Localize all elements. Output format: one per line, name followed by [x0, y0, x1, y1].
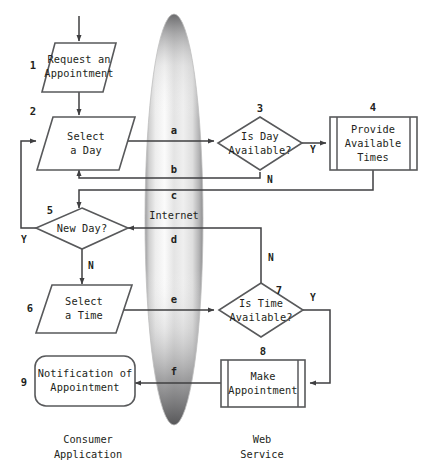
flowchart-canvas: 1 Request an Appointment 2 Select a Day … — [0, 0, 424, 475]
flowchart-diagram: 1 Request an Appointment 2 Select a Day … — [0, 0, 424, 475]
lane-label-consumer-line1: Consumer — [63, 433, 113, 445]
lane-label-consumer: Consumer Application — [54, 433, 122, 460]
lane-label-web-service-line1: Web — [253, 433, 272, 445]
node-select-a-time[interactable]: 6 Select a Time — [27, 285, 132, 333]
node-is-day-available[interactable]: 3 Is Day Available? — [218, 102, 302, 170]
step-number-2: 2 — [30, 105, 36, 117]
node-label-n6-line2: a Time — [65, 309, 103, 321]
node-make-appointment[interactable]: 8 Make Appointment — [221, 345, 305, 407]
node-select-a-day[interactable]: 2 Select a Day — [30, 105, 135, 170]
node-is-time-available[interactable]: 7 Is Time Available? — [219, 283, 303, 337]
node-label-n4-line1: Provide — [351, 123, 395, 135]
step-number-8: 8 — [260, 345, 266, 357]
node-label-n8-line1: Make — [250, 370, 275, 382]
node-label-n5-line1: New Day? — [57, 222, 107, 234]
node-provide-available-times[interactable]: 4 Provide Available Times — [330, 101, 417, 170]
step-number-4: 4 — [370, 101, 376, 113]
node-label-n1-line2: Appointment — [44, 67, 113, 79]
link-label-a: a — [171, 124, 177, 136]
node-label-n2-line1: Select — [67, 130, 105, 142]
step-number-9: 9 — [21, 376, 27, 388]
connector-n5-yes-loop — [21, 141, 36, 228]
node-label-n2-line2: a Day — [70, 144, 102, 156]
node-label-n4-line3: Times — [357, 151, 389, 163]
internet-cloud-label: Internet — [149, 209, 199, 221]
link-label-e: e — [171, 293, 177, 305]
link-label-b: b — [171, 163, 177, 175]
node-label-n6-line1: Select — [65, 295, 103, 307]
node-label-n8-line2: Appointment — [228, 384, 297, 396]
node-new-day[interactable]: 5 New Day? — [36, 204, 128, 249]
node-label-n7-line1: Is Time — [239, 297, 283, 309]
node-label-n3-line2: Available? — [229, 144, 292, 156]
branch-label-n7-no: N — [268, 252, 274, 263]
step-number-7: 7 — [276, 284, 282, 296]
branch-label-n3-no: N — [267, 174, 273, 185]
node-request-an-appointment[interactable]: 1 Request an Appointment — [30, 43, 116, 92]
branch-label-n3-yes: Y — [310, 144, 316, 155]
step-number-6: 6 — [27, 302, 33, 314]
step-number-5: 5 — [47, 204, 53, 216]
node-label-n9-line1: Notification of — [38, 367, 133, 379]
node-label-n3-line1: Is Day — [241, 130, 279, 142]
link-label-c: c — [171, 189, 177, 201]
node-label-n4-line2: Available — [345, 137, 402, 149]
branch-label-n7-yes: Y — [310, 292, 316, 303]
lane-label-web-service: Web Service — [240, 433, 283, 460]
node-label-n7-line2: Available? — [230, 311, 293, 323]
link-label-d: d — [171, 233, 177, 245]
connector-link-c — [79, 170, 373, 208]
step-number-1: 1 — [30, 59, 36, 71]
branch-label-n5-yes: Y — [21, 234, 27, 245]
node-label-n1-line1: Request an — [48, 53, 111, 65]
connector-n7-yes-to-n8 — [303, 310, 330, 383]
branch-label-n5-no: N — [88, 260, 94, 271]
step-number-3: 3 — [257, 102, 263, 114]
lane-label-consumer-line2: Application — [54, 448, 122, 460]
lane-label-web-service-line2: Service — [240, 448, 283, 460]
link-label-f: f — [171, 365, 177, 377]
diamond-shape-n7 — [219, 283, 303, 337]
node-label-n9-line2: Appointment — [50, 381, 119, 393]
node-notification-of-appointment[interactable]: 9 Notification of Appointment — [21, 356, 135, 406]
